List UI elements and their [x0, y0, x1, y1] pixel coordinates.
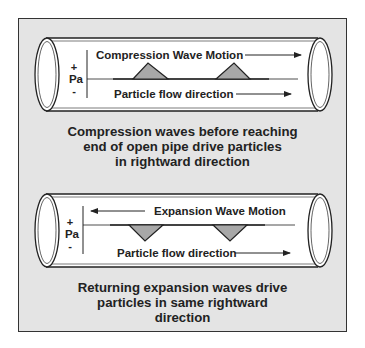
expansion-wave-motion-label: Expansion Wave Motion — [154, 205, 286, 217]
axis-plus: + — [71, 61, 77, 73]
pipe-right-opening — [308, 194, 332, 267]
axis-plus: + — [67, 216, 73, 228]
pipe-right-opening — [308, 38, 332, 111]
compression-flow-label: Particle flow direction — [114, 88, 234, 100]
axis-label-pa: Pa — [69, 73, 84, 85]
expansion-caption: Returning expansion waves drive particle… — [18, 280, 347, 325]
axis-minus: - — [68, 240, 72, 252]
axis-minus: - — [72, 85, 76, 97]
compression-wave-motion-label: Compression Wave Motion — [96, 49, 243, 61]
pipe-left-opening — [35, 194, 59, 267]
axis-label-pa: Pa — [65, 228, 80, 240]
compression-caption: Compression waves before reaching end of… — [18, 124, 347, 169]
pipe-left-opening — [35, 38, 59, 111]
expansion-flow-label: Particle flow direction — [117, 247, 237, 259]
